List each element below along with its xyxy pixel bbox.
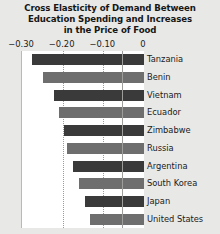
category-label: Tanzania: [147, 54, 183, 65]
category-label: Zimbabwe: [147, 125, 191, 136]
zero-axis-line: [122, 51, 123, 228]
x-tick-label: −0.20: [49, 39, 75, 50]
bar: [64, 125, 144, 136]
category-label: Japan: [147, 196, 170, 207]
category-label: Russia: [147, 143, 174, 154]
bar: [73, 161, 144, 172]
bar: [67, 143, 144, 154]
x-axis-tick-labels: −0.30−0.20−0.100: [0, 39, 220, 50]
category-label: United States: [147, 214, 203, 225]
category-label: South Korea: [147, 178, 197, 189]
bar: [43, 72, 144, 83]
plot-area: [21, 51, 144, 228]
category-label: Benin: [147, 72, 171, 83]
category-label: Vietnam: [147, 90, 182, 101]
bar: [79, 178, 144, 189]
chart-title-line-1: Cross Elasticity of Demand Between: [0, 3, 220, 14]
x-tick-label: 0: [140, 39, 145, 50]
category-label: Argentina: [147, 161, 187, 172]
bar: [32, 54, 144, 65]
chart-title-line-2: Education Spending and Increases: [0, 14, 220, 25]
bar: [54, 90, 144, 101]
bar: [59, 107, 144, 118]
chart-title: Cross Elasticity of Demand Between Educa…: [0, 3, 220, 37]
bar: [90, 214, 144, 225]
bar: [85, 196, 144, 207]
x-tick-label: −0.30: [8, 39, 34, 50]
category-label: Ecuador: [147, 107, 181, 118]
chart-container: Cross Elasticity of Demand Between Educa…: [0, 0, 220, 234]
x-tick-label: −0.10: [89, 39, 115, 50]
chart-title-line-3: in the Price of Food: [0, 25, 220, 36]
